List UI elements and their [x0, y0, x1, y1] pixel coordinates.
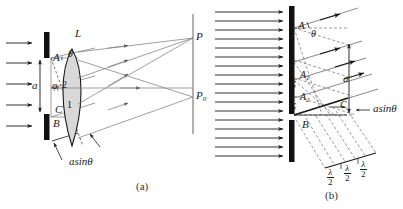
- label-ray-1: 1: [67, 100, 72, 110]
- label-slit-top-a: A: [53, 52, 60, 63]
- label-phi-a: φ: [52, 81, 58, 91]
- label-b-zone-g2: G: [289, 102, 296, 112]
- hw3-den: 2: [360, 170, 367, 179]
- zone-a2-sub: 2: [306, 96, 310, 104]
- zone-a1-sub: 1: [306, 74, 310, 82]
- label-b-slit-top-a: A: [298, 20, 305, 31]
- label-ray-2: 2: [62, 80, 67, 90]
- diffraction-figure: A B C a θ φ 2 1 L P P0 asinθ (a) A B θ a…: [0, 0, 403, 209]
- label-b-zone-a2: A2: [300, 92, 310, 104]
- label-half-wave-1: λ 2: [327, 168, 334, 187]
- panel-a-converging-lens: [63, 49, 81, 146]
- panel-a-plane-wave-arrows: [6, 43, 32, 126]
- label-p0-base: P: [196, 89, 203, 101]
- label-b-zone-a1: A1: [300, 70, 310, 82]
- label-b-path-difference: asinθ: [373, 103, 397, 114]
- caption-panel-a: (a): [136, 180, 148, 192]
- label-slit-width-a: a: [32, 80, 38, 91]
- pd-a-angle: θ: [87, 155, 92, 167]
- label-b-slit-bottom-b: B: [302, 119, 309, 130]
- label-screen-point-p0: P0: [196, 90, 206, 103]
- label-path-difference-a: asinθ: [69, 156, 93, 167]
- label-point-c: C: [55, 104, 62, 115]
- label-theta-a: θ: [68, 49, 73, 59]
- caption-panel-b: (b): [325, 189, 338, 201]
- label-b-zone-g1: G: [289, 80, 296, 90]
- panel-a-slit-jaws: [44, 32, 50, 140]
- hw1-den: 2: [327, 178, 334, 187]
- pd-b-fn: sin: [379, 102, 392, 114]
- label-p0-subscript: 0: [203, 95, 207, 103]
- pd-a-fn: sin: [75, 155, 88, 167]
- label-screen-point-p: P: [196, 31, 203, 42]
- label-lens-l: L: [75, 28, 81, 39]
- label-b-slit-width-a: a: [343, 73, 349, 84]
- panel-b-plane-wave-arrows: [215, 12, 283, 156]
- pd-b-angle: θ: [391, 102, 396, 114]
- label-b-theta: θ: [311, 29, 316, 39]
- label-half-wave-2: λ 2: [344, 164, 351, 183]
- label-slit-bottom-b: B: [53, 118, 60, 129]
- hw2-den: 2: [344, 174, 351, 183]
- panel-a-diffracted-rays-to-P: [78, 38, 193, 104]
- label-half-wave-3: λ 2: [360, 160, 367, 179]
- label-b-zone-point-c: C: [340, 100, 347, 110]
